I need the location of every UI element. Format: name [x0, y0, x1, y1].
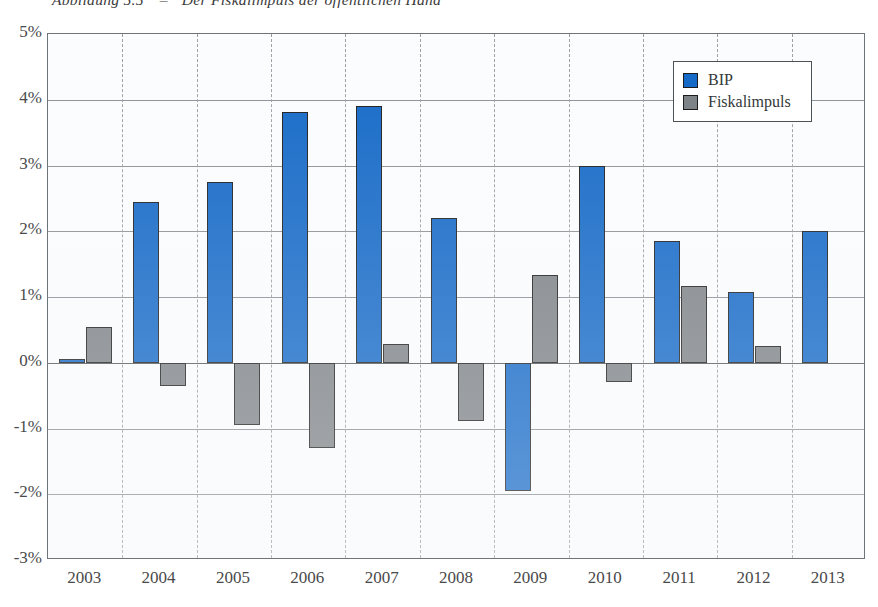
legend-label-bip: BIP	[708, 72, 733, 88]
y-axis-tick-label: 1%	[0, 285, 42, 305]
bar-fiskalimpuls-2010	[606, 363, 632, 383]
bar-bip-2005	[207, 182, 233, 363]
x-axis-tick-label: 2005	[216, 568, 250, 588]
gridline-horizontal	[48, 166, 864, 167]
x-axis-tick-label: 2012	[736, 568, 770, 588]
x-axis-tick-label: 2011	[662, 568, 695, 588]
y-axis-tick-label: -1%	[0, 417, 42, 437]
gridline-vertical	[494, 34, 495, 558]
bar-bip-2008	[431, 218, 457, 363]
legend-item-fiskalimpuls: Fiskalimpuls	[683, 91, 802, 113]
gridline-vertical	[643, 34, 644, 558]
bar-bip-2006	[282, 112, 308, 363]
y-axis-tick-label: -2%	[0, 482, 42, 502]
y-axis-tick-label: 3%	[0, 154, 42, 174]
legend-swatch-icon-fiskalimpuls	[683, 95, 698, 110]
x-axis-tick-label: 2010	[588, 568, 622, 588]
y-axis-tick-label: -3%	[0, 548, 42, 568]
bar-bip-2010	[579, 166, 605, 363]
gridline-vertical	[345, 34, 346, 558]
figure-caption: Abbildung 5.5–Der Fiskalimpuls der öffen…	[52, 0, 441, 9]
x-axis-tick-label: 2003	[67, 568, 101, 588]
x-axis-tick-label: 2013	[811, 568, 845, 588]
bar-bip-2007	[356, 106, 382, 362]
y-axis-tick-label: 5%	[0, 22, 42, 42]
chart-legend: BIP Fiskalimpuls	[673, 61, 812, 122]
gridline-vertical	[122, 34, 123, 558]
x-axis-tick-label: 2007	[365, 568, 399, 588]
bar-bip-2003	[59, 359, 85, 362]
y-axis-tick-label: 4%	[0, 88, 42, 108]
caption-dash: –	[160, 0, 168, 8]
bar-bip-2011	[654, 241, 680, 363]
bar-bip-2004	[133, 202, 159, 363]
bar-bip-2012	[728, 292, 754, 363]
x-axis-tick-label: 2006	[290, 568, 324, 588]
y-axis-labels: 5%4%3%2%1%0%-1%-2%-3%	[0, 0, 42, 607]
bar-fiskalimpuls-2005	[234, 363, 260, 425]
bar-fiskalimpuls-2006	[309, 363, 335, 448]
legend-item-bip: BIP	[683, 69, 802, 91]
x-axis-tick-label: 2009	[513, 568, 547, 588]
bar-bip-2009	[505, 363, 531, 491]
bar-fiskalimpuls-2009	[532, 275, 558, 362]
bar-fiskalimpuls-2007	[383, 344, 409, 362]
figure-number: Abbildung 5.5	[52, 0, 144, 8]
x-axis-tick-label: 2008	[439, 568, 473, 588]
y-axis-tick-label: 0%	[0, 351, 42, 371]
gridline-vertical	[569, 34, 570, 558]
gridline-horizontal	[48, 429, 864, 430]
bar-fiskalimpuls-2003	[86, 327, 112, 363]
y-axis-tick-label: 2%	[0, 219, 42, 239]
legend-label-fiskalimpuls: Fiskalimpuls	[708, 94, 791, 110]
bar-fiskalimpuls-2004	[160, 363, 186, 386]
x-axis-tick-label: 2004	[142, 568, 176, 588]
gridline-vertical	[420, 34, 421, 558]
bar-fiskalimpuls-2011	[681, 286, 707, 362]
bar-fiskalimpuls-2008	[458, 363, 484, 421]
bar-bip-2013	[802, 231, 828, 363]
gridline-horizontal	[48, 494, 864, 495]
gridline-vertical	[271, 34, 272, 558]
gridline-vertical	[197, 34, 198, 558]
legend-swatch-icon-bip	[683, 73, 698, 88]
bar-fiskalimpuls-2012	[755, 346, 781, 362]
figure-title: Der Fiskalimpuls der öffentlichen Hand	[182, 0, 441, 8]
